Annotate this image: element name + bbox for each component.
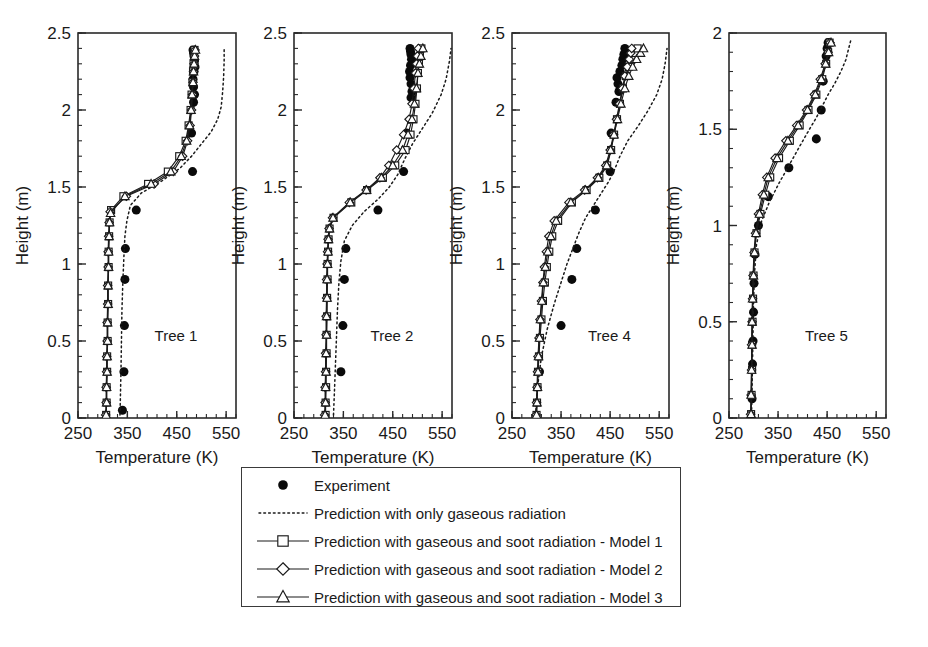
x-tick-label: 350	[764, 424, 792, 443]
data-marker-filled-circle	[557, 321, 566, 330]
x-axis-title: Temperature (K)	[96, 448, 219, 467]
y-tick-label: 0.5	[698, 313, 722, 332]
series-path	[120, 48, 224, 415]
series-path	[752, 41, 851, 414]
y-tick-label: 1.5	[481, 178, 505, 197]
x-tick-label: 450	[163, 424, 191, 443]
legend-label: Prediction with gaseous and soot radiati…	[314, 561, 663, 578]
x-tick-label: 350	[547, 424, 575, 443]
y-tick-label: 0.5	[263, 332, 287, 351]
legend-label: Prediction with gaseous and soot radiati…	[314, 533, 663, 550]
data-marker-filled-circle	[278, 480, 288, 490]
panel-label-tree-5: Tree 5	[805, 327, 848, 344]
chart-svg-tree-5: 25035045055000.511.52Temperature (K)Heig…	[663, 0, 902, 480]
series-none	[752, 41, 851, 414]
series-none	[334, 48, 452, 415]
panel-label-tree-1: Tree 1	[155, 327, 198, 344]
plot-frame	[294, 33, 452, 418]
data-marker-filled-circle	[373, 206, 382, 215]
legend-swatch-icon	[255, 587, 311, 607]
chart-panel-tree-4: 25035045055000.511.522.5Temperature (K)H…	[446, 0, 685, 480]
y-tick-label: 2	[496, 101, 505, 120]
x-tick-label: 350	[329, 424, 357, 443]
series-path	[106, 50, 195, 415]
y-tick-label: 1	[713, 217, 722, 236]
series-open-square	[103, 46, 198, 418]
data-marker-filled-circle	[132, 206, 141, 215]
chart-svg-tree-1: 25035045055000.511.522.5Temperature (K)H…	[12, 0, 252, 480]
caption-partial	[0, 628, 928, 642]
y-axis-title: Height (m)	[664, 186, 683, 265]
legend-symbol-open-triangle	[252, 587, 314, 607]
legend-symbol-filled-circle	[252, 475, 314, 495]
legend-item-3: Prediction with gaseous and soot radiati…	[252, 527, 680, 555]
legend-item-2: Prediction with only gaseous radiation	[252, 499, 680, 527]
panel-label-tree-2: Tree 2	[371, 327, 414, 344]
data-layer	[746, 38, 850, 418]
y-axis-title: Height (m)	[447, 186, 466, 265]
legend-swatch-icon	[255, 475, 311, 495]
data-marker-filled-circle	[399, 167, 408, 176]
x-tick-label: 450	[596, 424, 624, 443]
data-marker-filled-circle	[336, 367, 345, 376]
legend-symbol-dotted	[252, 503, 314, 523]
series-path	[106, 50, 195, 415]
legend-item-5: Prediction with gaseous and soot radiati…	[252, 583, 680, 611]
x-tick-label: 450	[379, 424, 407, 443]
data-marker-filled-circle	[338, 321, 347, 330]
legend-items: ExperimentPrediction with only gaseous r…	[242, 468, 680, 611]
y-tick-label: 1	[62, 255, 71, 274]
legend-swatch-icon	[255, 531, 311, 551]
legend: ExperimentPrediction with only gaseous r…	[241, 467, 681, 607]
data-marker-filled-circle	[812, 134, 821, 143]
legend-label: Experiment	[314, 477, 390, 494]
x-tick-label: 550	[862, 424, 890, 443]
y-tick-label: 0.5	[47, 332, 71, 351]
data-marker-open-diamond	[277, 563, 289, 575]
data-marker-filled-circle	[340, 275, 349, 284]
y-tick-label: 2.5	[47, 24, 71, 43]
y-tick-label: 2.5	[263, 24, 287, 43]
x-axis-title: Temperature (K)	[746, 448, 869, 467]
y-tick-label: 1.5	[698, 120, 722, 139]
panel-label-tree-4: Tree 4	[588, 327, 631, 344]
y-tick-label: 0	[713, 409, 722, 428]
data-marker-filled-circle	[406, 44, 415, 53]
figure-root: 25035045055000.511.522.5Temperature (K)H…	[0, 0, 928, 647]
y-tick-label: 0	[496, 409, 505, 428]
legend-label: Prediction with gaseous and soot radiati…	[314, 589, 663, 606]
legend-item-1: Experiment	[252, 471, 680, 499]
y-tick-label: 2	[278, 101, 287, 120]
y-tick-label: 2.5	[481, 24, 505, 43]
x-axis-title: Temperature (K)	[312, 448, 435, 467]
series-open-square	[533, 45, 641, 419]
data-marker-filled-circle	[567, 275, 576, 284]
series-path	[537, 48, 644, 415]
data-marker-filled-circle	[120, 275, 129, 284]
series-path	[326, 48, 422, 415]
data-layer	[532, 44, 667, 419]
legend-swatch-icon	[255, 559, 311, 579]
legend-symbol-open-square	[252, 531, 314, 551]
plot-frame	[78, 33, 236, 418]
chart-panel-tree-2: 25035045055000.511.522.5Temperature (K)H…	[228, 0, 468, 480]
x-tick-label: 450	[813, 424, 841, 443]
series-open-triangle	[532, 44, 647, 418]
y-tick-label: 2	[62, 101, 71, 120]
chart-panel-tree-1: 25035045055000.511.522.5Temperature (K)H…	[12, 0, 252, 480]
data-marker-open-triangle	[277, 591, 289, 602]
x-axis-title: Temperature (K)	[529, 448, 652, 467]
y-tick-label: 1	[278, 255, 287, 274]
legend-symbol-open-diamond	[252, 559, 314, 579]
y-tick-label: 0	[278, 409, 287, 428]
y-tick-label: 1.5	[47, 178, 71, 197]
chart-panel-tree-5: 25035045055000.511.52Temperature (K)Heig…	[663, 0, 902, 480]
series-path	[334, 48, 452, 415]
y-axis-title: Height (m)	[13, 186, 32, 265]
series-path	[536, 48, 667, 415]
series-filled-circle	[118, 45, 200, 414]
data-marker-filled-circle	[121, 244, 130, 253]
series-path	[106, 50, 194, 415]
y-tick-label: 2	[713, 24, 722, 43]
y-tick-label: 1.5	[263, 178, 287, 197]
